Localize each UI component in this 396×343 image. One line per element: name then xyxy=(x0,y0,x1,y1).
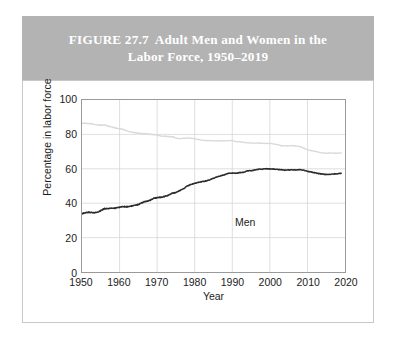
y-tick-label: 80 xyxy=(51,129,77,139)
gridlines xyxy=(82,100,345,272)
chart-panel: Percentage in labor force 020406080100 M… xyxy=(22,80,374,323)
x-tick-label: 2020 xyxy=(334,276,357,288)
x-tick-label: 2010 xyxy=(296,276,319,288)
y-axis-tick-labels: 020406080100 xyxy=(47,99,77,273)
chart-svg xyxy=(82,100,345,272)
x-tick-label: 1960 xyxy=(107,276,130,288)
figure-page: FIGURE 27.7Adult Men and Women in the La… xyxy=(0,0,396,343)
x-tick-label: 2000 xyxy=(259,276,282,288)
x-tick-label: 1950 xyxy=(69,276,92,288)
y-tick-label: 100 xyxy=(51,94,77,104)
figure-title-line2: Labor Force, 1950–2019 xyxy=(128,49,269,64)
figure-number: FIGURE 27.7 xyxy=(69,32,149,47)
x-tick-label: 1990 xyxy=(221,276,244,288)
y-tick-label: 20 xyxy=(51,233,77,243)
figure-title-band: FIGURE 27.7Adult Men and Women in the La… xyxy=(22,16,374,80)
y-tick-label: 60 xyxy=(51,164,77,174)
x-tick-label: 1980 xyxy=(183,276,206,288)
x-tick-label: 1970 xyxy=(145,276,168,288)
figure-title-line1: Adult Men and Women in the xyxy=(155,32,327,47)
figure-title: FIGURE 27.7Adult Men and Women in the La… xyxy=(55,31,341,65)
y-tick-label: 40 xyxy=(51,198,77,208)
plot-area: Men Women xyxy=(81,99,346,273)
series-label-men: Men xyxy=(235,216,255,228)
x-axis-title: Year xyxy=(81,290,346,302)
